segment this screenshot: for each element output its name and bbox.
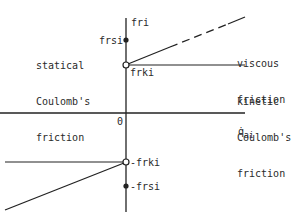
statical-friction-annotation: statical Coulomb's friction	[36, 36, 90, 156]
neg-frki-label: -frki	[130, 157, 160, 169]
frsi-label: frsi	[99, 35, 123, 47]
neg-frsi-point	[123, 183, 128, 188]
kinetic-friction-annotation: kinetic Coulomb's friction	[237, 72, 291, 192]
frki-label: frki	[130, 67, 154, 79]
statical-line-3: friction	[36, 132, 90, 144]
neg-frki-open-point	[123, 159, 129, 165]
viscous-friction-line-dashed	[170, 24, 228, 47]
viscous-friction-line-solid-a	[128, 47, 170, 64]
kinetic-line-1: kinetic	[237, 96, 291, 108]
statical-line-1: statical	[36, 60, 90, 72]
kinetic-line-2: Coulomb's	[237, 132, 291, 144]
kinetic-line-3: friction	[237, 168, 291, 180]
neg-frsi-label: -frsi	[130, 181, 160, 193]
frsi-point	[123, 37, 128, 42]
viscous-friction-line-negative	[5, 163, 124, 210]
viscous-friction-line-solid-b	[228, 17, 245, 24]
statical-line-2: Coulomb's	[36, 96, 90, 108]
viscous-line-1: viscous	[237, 58, 285, 70]
frki-open-point	[123, 62, 129, 68]
vertical-axis-label: fri	[131, 17, 149, 29]
origin-label: 0	[117, 116, 123, 128]
